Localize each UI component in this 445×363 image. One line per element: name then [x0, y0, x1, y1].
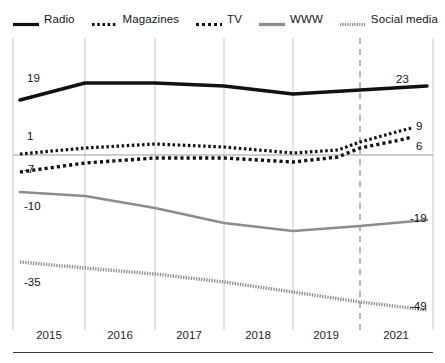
legend-swatch-social-media-dense-dash-line-icon — [340, 15, 366, 24]
x-tick-2015: 2015 — [36, 329, 62, 341]
legend-label-tv: TV — [227, 13, 242, 25]
value-label-www-start: -10 — [24, 200, 41, 212]
chart-legend: Radio Magazines TV WWW S — [0, 8, 445, 30]
legend-swatch-radio-solid-line-icon — [13, 15, 39, 24]
value-label-www-end: -19 — [410, 212, 427, 224]
value-label-social-start: -35 — [24, 276, 41, 288]
chart-plot-area: 19 1 -7 -10 -35 23 9 6 -19 -49 — [0, 30, 445, 335]
value-label-radio-end: 23 — [396, 73, 409, 85]
x-tick-2018: 2018 — [245, 329, 271, 341]
x-tick-2017: 2017 — [176, 329, 202, 341]
x-tick-2021: 2021 — [383, 329, 409, 341]
x-tick-2016: 2016 — [107, 329, 133, 341]
legend-item-www: WWW — [259, 13, 323, 25]
legend-item-tv: TV — [196, 13, 242, 25]
bottom-divider-rule — [13, 352, 433, 353]
legend-item-radio: Radio — [13, 13, 75, 25]
legend-label-www: WWW — [290, 13, 323, 25]
value-label-tv-start: -7 — [24, 163, 34, 175]
x-axis-tick-labels: 2015 2016 2017 2018 2019 2021 — [0, 329, 445, 351]
legend-swatch-tv-coarse-dotted-line-icon — [196, 15, 222, 24]
value-label-magazines-start: 1 — [27, 130, 33, 142]
legend-label-magazines: Magazines — [123, 13, 180, 25]
line-chart-svg — [0, 30, 445, 335]
value-label-radio-start: 19 — [27, 72, 40, 84]
legend-swatch-magazines-fine-dotted-line-icon — [92, 15, 118, 24]
x-tick-2019: 2019 — [313, 329, 339, 341]
value-label-magazines-end: 9 — [416, 120, 422, 132]
value-label-tv-end: 6 — [416, 140, 422, 152]
value-label-social-end: -49 — [410, 300, 427, 312]
gridlines-vertical — [13, 38, 433, 330]
legend-label-radio: Radio — [44, 13, 75, 25]
legend-swatch-www-solid-gray-line-icon — [259, 15, 285, 24]
legend-item-social-media: Social media — [340, 13, 438, 25]
legend-label-social-media: Social media — [371, 13, 438, 25]
legend-item-magazines: Magazines — [92, 13, 180, 25]
